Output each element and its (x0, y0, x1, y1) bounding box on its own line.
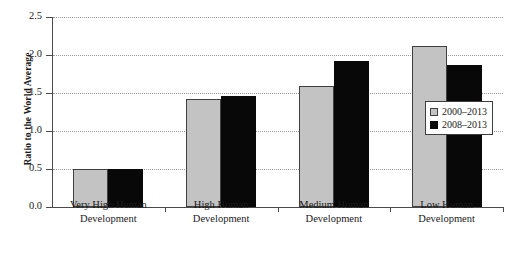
category-label-line: Development (390, 212, 503, 226)
x-axis-category-label: Medium HumanDevelopment (278, 198, 391, 225)
category-label-line: Development (52, 212, 165, 226)
category-label-line: Low Human (390, 198, 503, 212)
x-axis-category-label: High HumanDevelopment (165, 198, 278, 225)
chart-legend: 2000–2013 2008–2013 (425, 101, 493, 135)
legend-item: 2000–2013 (430, 105, 487, 118)
category-label-line: Medium Human (278, 198, 391, 212)
y-axis-tick-label: 0.5 (29, 162, 42, 173)
y-axis-tick-label: 1.5 (29, 86, 42, 97)
y-axis-tick-label: 2.0 (29, 48, 42, 59)
legend-label: 2000–2013 (442, 106, 487, 117)
category-label-line: Very High Human (52, 198, 165, 212)
category-label-line: Development (165, 212, 278, 226)
legend-item: 2008–2013 (430, 118, 487, 131)
y-axis-tick: 2.0 (46, 55, 52, 56)
legend-swatch-2000-2013-icon (430, 108, 438, 116)
x-axis-category-label: Low HumanDevelopment (390, 198, 503, 225)
y-axis-tick: 2.5 (46, 17, 52, 18)
category-label-line: High Human (165, 198, 278, 212)
bar (299, 86, 334, 207)
y-axis-tick: 1.5 (46, 93, 52, 94)
bar (186, 99, 221, 207)
x-axis-category-label: Very High HumanDevelopment (52, 198, 165, 225)
x-axis-tick (503, 207, 504, 212)
gridline (53, 17, 503, 18)
bar (334, 61, 369, 207)
y-axis-tick-label: 0.0 (29, 200, 42, 211)
bar (447, 65, 482, 207)
bar-chart-figure: Ratio to the World Average 0.00.51.01.52… (0, 0, 518, 258)
category-label-line: Development (278, 212, 391, 226)
y-axis-tick-label: 1.0 (29, 124, 42, 135)
y-axis-tick-label: 2.5 (29, 10, 42, 21)
y-axis-tick: 1.0 (46, 131, 52, 132)
legend-label: 2008–2013 (442, 119, 487, 130)
y-axis-tick: 0.5 (46, 169, 52, 170)
y-axis-line (52, 17, 53, 207)
legend-swatch-2008-2013-icon (430, 121, 438, 129)
bar (221, 96, 256, 207)
